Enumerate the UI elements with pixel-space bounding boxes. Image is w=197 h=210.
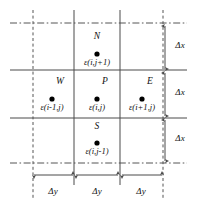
node-dot-north [94,51,99,56]
node-expr-north: ε(i,j+1) [84,58,110,67]
dimension-label-dy-center: Δy [92,187,101,196]
node-dot-south [94,140,99,145]
node-letter-north: N [94,32,101,42]
dimension-label-dx-middle: Δx [175,88,184,97]
dimension-label-dx-top: Δx [175,41,184,50]
node-letter-west: W [56,77,64,87]
node-expr-west: ε(i-1,j) [40,103,63,112]
node-dot-east [139,96,144,101]
node-expr-center: ε(i,j) [89,103,105,112]
node-letter-center: P [102,77,108,87]
dimension-label-dy-right: Δy [136,187,145,196]
node-letter-east: E [147,77,153,87]
stencil-figure: N ε(i,j+1) W ε(i-1,j) P ε(i,j) E ε(i+1,j… [0,0,197,210]
node-expr-east: ε(i+1,j) [129,103,155,112]
node-letter-south: S [95,122,100,132]
node-dot-west [49,96,54,101]
dimension-label-dx-bottom: Δx [175,134,184,143]
node-expr-south: ε(i,j-1) [85,147,108,156]
dimension-label-dy-left: Δy [48,187,57,196]
node-dot-center [94,96,99,101]
